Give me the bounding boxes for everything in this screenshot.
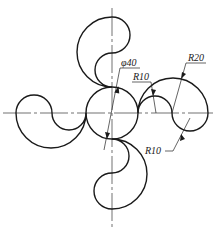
arrowhead-icon	[180, 134, 185, 141]
figure-caption: … …	[88, 232, 107, 236]
lobe-top	[77, 17, 130, 87]
diameter-label: φ40	[121, 57, 137, 68]
dimension-r10-upper: R10	[132, 71, 156, 113]
dimension-r10-lower: R10	[144, 118, 190, 156]
r20-label: R20	[187, 52, 204, 63]
lobe-left	[16, 95, 86, 148]
technical-drawing: φ40 R10 R20 R10 … …	[0, 0, 216, 236]
lobe-right	[138, 78, 208, 131]
r10-lower-label: R10	[144, 145, 161, 156]
r10-upper-label: R10	[132, 71, 149, 82]
lobe-bottom	[94, 139, 147, 209]
arrowhead-icon	[151, 89, 156, 96]
arrowhead-icon	[181, 72, 186, 79]
